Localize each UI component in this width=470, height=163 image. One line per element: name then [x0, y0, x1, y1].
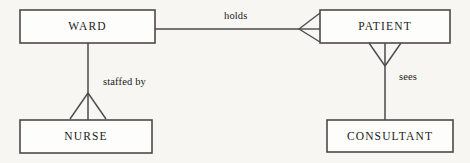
relationship-label-staffed-by: staffed by [103, 76, 147, 87]
er-diagram-svg: WARD PATIENT NURSE CONSULTANT holds staf… [0, 0, 470, 163]
holds-crowfoot-prong-upper [299, 13, 320, 29]
staffed-by-crowfoot-prong-left [70, 93, 88, 119]
relationship-label-holds: holds [224, 10, 248, 21]
sees-crowfoot-prong-right [385, 43, 401, 66]
entity-patient-label: PATIENT [358, 20, 412, 32]
entity-ward-label: WARD [68, 20, 106, 32]
entity-ward[interactable]: WARD [20, 10, 155, 43]
holds-crowfoot-prong-lower [299, 29, 320, 42]
entity-patient[interactable]: PATIENT [320, 10, 450, 43]
relationship-label-sees: sees [399, 71, 417, 82]
sees-crowfoot-prong-left [369, 43, 385, 66]
relationship-staffed-by[interactable] [70, 43, 106, 120]
staffed-by-crowfoot-prong-right [88, 93, 106, 119]
relationship-sees[interactable] [369, 43, 401, 120]
er-diagram-canvas: WARD PATIENT NURSE CONSULTANT holds staf… [0, 0, 470, 163]
entity-consultant[interactable]: CONSULTANT [327, 120, 453, 152]
entity-consultant-label: CONSULTANT [347, 130, 433, 142]
entity-nurse-label: NURSE [64, 130, 107, 142]
entity-nurse[interactable]: NURSE [20, 120, 152, 153]
